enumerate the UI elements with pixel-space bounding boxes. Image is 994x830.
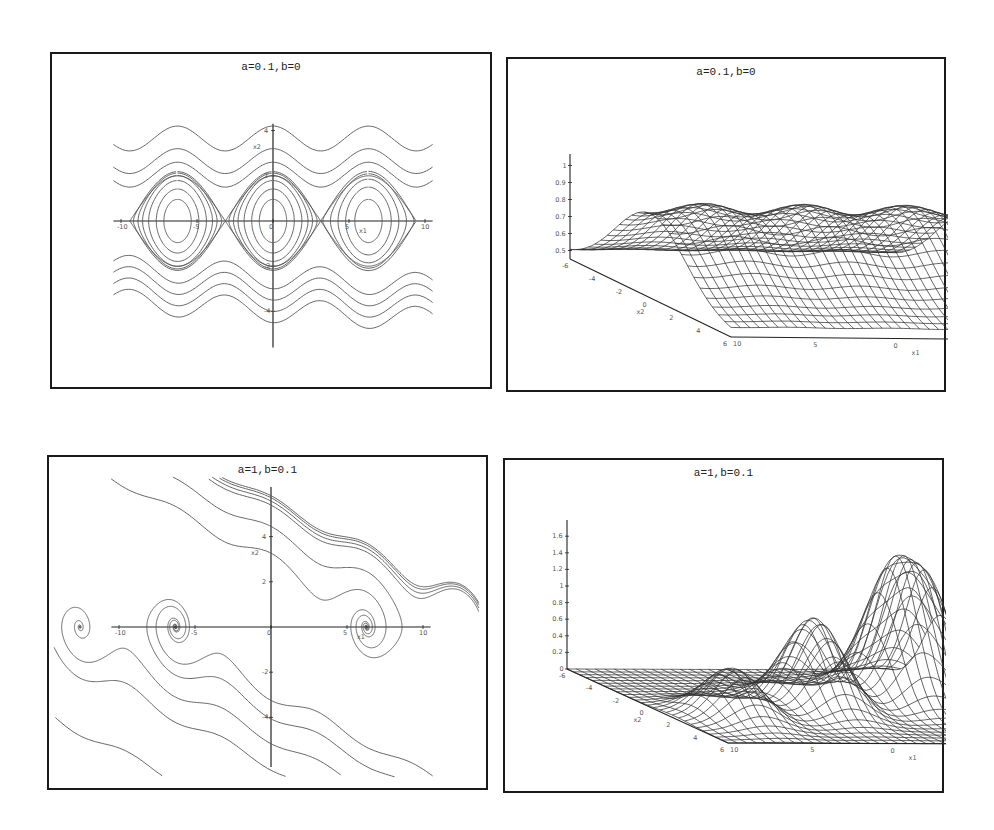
svg-text:-10: -10 (115, 629, 126, 637)
svg-text:-6: -6 (562, 262, 568, 270)
svg-text:6: 6 (723, 340, 727, 348)
phase-portrait-plot: -10-5051042-2-4x1x2 (49, 457, 490, 792)
svg-text:10: 10 (730, 746, 738, 754)
svg-text:2: 2 (666, 721, 670, 729)
panel-phase-portrait-1: a=0.1,b=0 -10-5051042-2-4x1x2 (50, 52, 492, 389)
phase-portrait-plot: -10-5051042-2-4x1x2 (52, 54, 494, 391)
svg-text:10: 10 (733, 340, 741, 348)
svg-text:0.7: 0.7 (555, 213, 565, 221)
surface-plot: 0.50.60.70.80.91-6-4-202461050-5-10x2x1 (508, 59, 948, 394)
svg-text:4: 4 (696, 327, 700, 335)
svg-text:1.6: 1.6 (552, 532, 562, 540)
svg-text:0: 0 (891, 747, 895, 755)
svg-text:4: 4 (262, 533, 266, 541)
svg-text:-10: -10 (117, 223, 128, 231)
svg-text:-6: -6 (559, 672, 565, 680)
svg-text:0: 0 (267, 629, 271, 637)
svg-text:5: 5 (810, 746, 814, 754)
svg-text:x2: x2 (251, 549, 259, 557)
surface-plot: 00.20.40.60.811.21.41.6-6-4-202461050-5-… (505, 460, 946, 795)
svg-text:x1: x1 (912, 349, 920, 357)
svg-text:5: 5 (813, 341, 817, 349)
svg-text:-4: -4 (264, 307, 270, 315)
svg-text:0.5: 0.5 (555, 247, 565, 255)
svg-text:1.2: 1.2 (552, 565, 562, 573)
svg-text:1: 1 (562, 162, 566, 170)
svg-text:1.4: 1.4 (552, 549, 562, 557)
svg-text:-2: -2 (262, 668, 268, 676)
svg-text:0.9: 0.9 (555, 179, 565, 187)
svg-text:0: 0 (894, 342, 898, 350)
svg-text:0.8: 0.8 (555, 196, 565, 204)
svg-text:4: 4 (693, 734, 697, 742)
panel-phase-portrait-2: a=1,b=0.1 -10-5051042-2-4x1x2 (47, 455, 488, 790)
svg-text:-4: -4 (589, 275, 595, 283)
svg-text:10: 10 (421, 223, 429, 231)
svg-text:6: 6 (720, 746, 724, 754)
svg-text:0.6: 0.6 (552, 615, 562, 623)
svg-text:-2: -2 (613, 697, 619, 705)
svg-text:x1: x1 (359, 227, 367, 235)
svg-text:0: 0 (269, 223, 273, 231)
svg-text:-5: -5 (191, 629, 197, 637)
svg-text:-2: -2 (616, 288, 622, 296)
panel-surface-2: a=1,b=0.1 00.20.40.60.811.21.41.6-6-4-20… (503, 458, 944, 793)
svg-text:0.8: 0.8 (552, 599, 562, 607)
svg-text:0.2: 0.2 (552, 648, 562, 656)
svg-text:10: 10 (419, 629, 427, 637)
panel-surface-1: a=0.1,b=0 0.50.60.70.80.91-6-4-202461050… (506, 57, 946, 392)
svg-text:0.6: 0.6 (555, 230, 565, 238)
svg-text:2: 2 (669, 314, 673, 322)
svg-text:x1: x1 (909, 754, 917, 762)
svg-text:0.4: 0.4 (552, 632, 562, 640)
svg-text:-4: -4 (586, 684, 592, 692)
svg-text:1: 1 (559, 582, 563, 590)
svg-text:5: 5 (343, 629, 347, 637)
svg-text:x2: x2 (634, 716, 642, 724)
svg-text:x2: x2 (637, 308, 645, 316)
svg-text:x2: x2 (253, 143, 261, 151)
svg-text:2: 2 (262, 578, 266, 586)
